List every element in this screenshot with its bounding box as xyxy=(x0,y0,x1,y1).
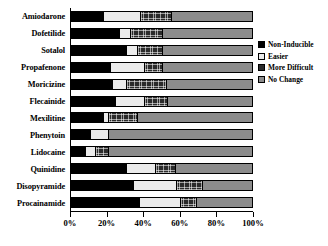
y-axis-label: Disopyramide xyxy=(0,178,68,195)
bar-segment-more-difficult[interactable] xyxy=(137,46,162,55)
bar-segment-non-inducible[interactable] xyxy=(72,147,85,156)
bar-segment-no-change[interactable] xyxy=(137,113,252,122)
stacked-bar[interactable] xyxy=(71,180,253,191)
bar-segment-easier[interactable] xyxy=(139,198,180,207)
bar-segment-non-inducible[interactable] xyxy=(72,164,126,173)
legend-item[interactable]: No Change xyxy=(258,75,314,84)
x-axis-tick xyxy=(253,212,254,217)
bar-segment-easier[interactable] xyxy=(103,12,141,21)
x-axis-tick-label: 20% xyxy=(98,218,115,228)
stacked-bar[interactable] xyxy=(71,28,253,39)
bar-segment-easier[interactable] xyxy=(115,97,144,106)
bar-segment-no-change[interactable] xyxy=(167,97,252,106)
bar-rows xyxy=(71,8,253,211)
bar-segment-non-inducible[interactable] xyxy=(72,80,112,89)
bar-segment-non-inducible[interactable] xyxy=(72,46,126,55)
bar-segment-easier[interactable] xyxy=(110,63,144,72)
stacked-bar-chart: AmiodaroneDofetilideSotalolPropafenoneMo… xyxy=(0,0,328,246)
bar-segment-more-difficult[interactable] xyxy=(126,80,166,89)
stacked-bar[interactable] xyxy=(71,163,253,174)
bar-segment-more-difficult[interactable] xyxy=(180,198,196,207)
bar-segment-more-difficult[interactable] xyxy=(95,147,108,156)
x-axis-tick-label: 100% xyxy=(242,218,263,228)
bar-segment-easier[interactable] xyxy=(112,80,126,89)
stacked-bar[interactable] xyxy=(71,96,253,107)
bar-segment-no-change[interactable] xyxy=(171,12,252,21)
stacked-bar[interactable] xyxy=(71,45,253,56)
bar-segment-more-difficult[interactable] xyxy=(144,63,162,72)
y-axis-label: Propafenone xyxy=(0,59,68,76)
legend-item[interactable]: Non-Inducible xyxy=(258,40,314,49)
y-axis-label: Phenytoin xyxy=(0,127,68,144)
legend-item[interactable]: More Difficult xyxy=(258,63,314,72)
chart-legend: Non-InducibleEasierMore DifficultNo Chan… xyxy=(258,40,314,84)
bar-segment-no-change[interactable] xyxy=(162,63,252,72)
legend-label: Non-Inducible xyxy=(268,40,314,49)
bar-segment-non-inducible[interactable] xyxy=(72,198,139,207)
bar-segment-easier[interactable] xyxy=(119,29,130,38)
bar-segment-no-change[interactable] xyxy=(175,164,252,173)
legend-label: Easier xyxy=(268,52,288,61)
bar-row xyxy=(71,93,253,110)
bar-segment-non-inducible[interactable] xyxy=(72,130,90,139)
bar-segment-more-difficult[interactable] xyxy=(155,164,175,173)
x-axis-tick-label: 40% xyxy=(135,218,152,228)
x-axis-tick xyxy=(107,212,108,217)
stacked-bar[interactable] xyxy=(71,79,253,90)
bar-segment-easier[interactable] xyxy=(85,147,96,156)
bar-segment-non-inducible[interactable] xyxy=(72,12,103,21)
bar-row xyxy=(71,76,253,93)
stacked-bar[interactable] xyxy=(71,197,253,208)
bar-segment-non-inducible[interactable] xyxy=(72,113,103,122)
bar-segment-more-difficult[interactable] xyxy=(176,181,201,190)
bar-segment-no-change[interactable] xyxy=(162,46,252,55)
legend-label: More Difficult xyxy=(268,63,313,72)
bar-segment-no-change[interactable] xyxy=(162,29,252,38)
x-axis-tick-label: 0% xyxy=(64,218,77,228)
legend-swatch-easier-icon xyxy=(258,53,265,60)
bar-row xyxy=(71,143,253,160)
bar-segment-easier[interactable] xyxy=(90,130,108,139)
bar-segment-more-difficult[interactable] xyxy=(108,113,137,122)
bar-segment-more-difficult[interactable] xyxy=(140,12,171,21)
legend-swatch-more-difficult-icon xyxy=(258,64,265,71)
bar-segment-easier[interactable] xyxy=(126,46,137,55)
bar-segment-no-change[interactable] xyxy=(166,80,252,89)
legend-label: No Change xyxy=(268,75,303,84)
bar-segment-no-change[interactable] xyxy=(202,181,252,190)
bar-segment-non-inducible[interactable] xyxy=(72,29,119,38)
bar-segment-no-change[interactable] xyxy=(108,147,252,156)
bar-row xyxy=(71,25,253,42)
bar-row xyxy=(71,110,253,127)
bar-segment-non-inducible[interactable] xyxy=(72,63,110,72)
bar-segment-more-difficult[interactable] xyxy=(130,29,162,38)
bar-segment-non-inducible[interactable] xyxy=(72,181,133,190)
stacked-bar[interactable] xyxy=(71,62,253,73)
stacked-bar[interactable] xyxy=(71,146,253,157)
bar-segment-easier[interactable] xyxy=(133,181,176,190)
y-axis-label: Amiodarone xyxy=(0,8,68,25)
bar-segment-non-inducible[interactable] xyxy=(72,97,115,106)
y-axis-category-labels: AmiodaroneDofetilideSotalolPropafenoneMo… xyxy=(0,8,68,212)
bar-segment-more-difficult[interactable] xyxy=(144,97,167,106)
bar-row xyxy=(71,194,253,211)
bar-segment-easier[interactable] xyxy=(126,164,155,173)
bar-segment-no-change[interactable] xyxy=(196,198,252,207)
stacked-bar[interactable] xyxy=(71,129,253,140)
x-axis-tick xyxy=(143,212,144,217)
y-axis-label: Moricizine xyxy=(0,76,68,93)
y-axis-label: Procainamide xyxy=(0,195,68,212)
legend-swatch-no-change-icon xyxy=(258,76,265,83)
x-axis-tick xyxy=(70,212,71,217)
bar-segment-no-change[interactable] xyxy=(108,130,252,139)
x-axis-tick xyxy=(216,212,217,217)
x-axis-ticks xyxy=(70,212,253,217)
stacked-bar[interactable] xyxy=(71,112,253,123)
bar-row xyxy=(71,177,253,194)
legend-item[interactable]: Easier xyxy=(258,52,314,61)
stacked-bar[interactable] xyxy=(71,11,253,22)
y-axis-label: Dofetilide xyxy=(0,25,68,42)
bar-row xyxy=(71,42,253,59)
x-axis-tick-label: 60% xyxy=(171,218,188,228)
x-axis-tick xyxy=(180,212,181,217)
